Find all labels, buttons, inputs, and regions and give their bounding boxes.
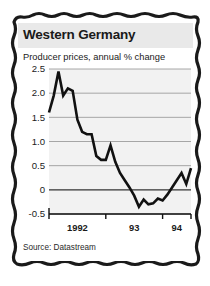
line-chart-svg: 2.52.01.51.00.50-0.5 19929394 <box>18 66 193 241</box>
svg-text:2.0: 2.0 <box>32 87 45 98</box>
x-axis-labels: 19929394 <box>67 222 183 233</box>
plot-area: 2.52.01.51.00.50-0.5 19929394 <box>18 66 193 241</box>
svg-text:1.0: 1.0 <box>32 136 45 147</box>
chart-subtitle: Producer prices, annual % change <box>23 52 165 62</box>
svg-text:2.5: 2.5 <box>32 66 45 74</box>
svg-text:93: 93 <box>129 222 139 233</box>
svg-text:0: 0 <box>40 184 45 195</box>
chart-card: Western Germany Producer prices, annual … <box>18 23 193 261</box>
svg-text:0.5: 0.5 <box>32 160 45 171</box>
chart-card-root: Western Germany Producer prices, annual … <box>0 0 210 286</box>
svg-text:1992: 1992 <box>67 222 88 233</box>
source-note: Source: Datastream <box>23 243 96 252</box>
page-title: Western Germany <box>23 27 135 42</box>
svg-text:1.5: 1.5 <box>32 112 45 123</box>
svg-text:-0.5: -0.5 <box>28 208 45 219</box>
svg-text:94: 94 <box>172 222 183 233</box>
y-axis-labels: 2.52.01.51.00.50-0.5 <box>28 66 45 219</box>
